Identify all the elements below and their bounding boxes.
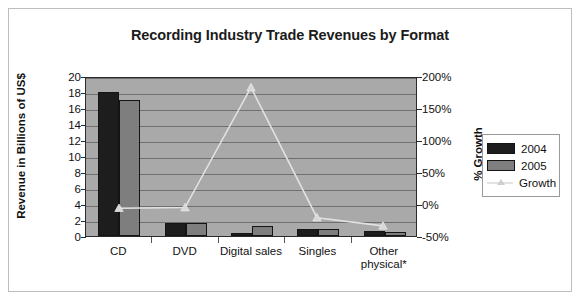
growth-line-series xyxy=(86,78,416,236)
growth-marker-digital-sales xyxy=(247,83,255,90)
y-tick-label-left: 0 xyxy=(41,231,81,243)
plot-area xyxy=(85,77,417,237)
legend-swatch-line-triangle-icon xyxy=(487,178,513,187)
legend-item-2005[interactable]: 2005 xyxy=(487,157,555,174)
x-axis-label: Singles xyxy=(284,245,350,258)
category-separator xyxy=(218,237,219,243)
legend-label: Growth xyxy=(519,177,556,189)
category-separator xyxy=(151,237,152,243)
category-separator xyxy=(284,237,285,243)
category-separator xyxy=(351,237,352,243)
legend-label: 2004 xyxy=(521,143,547,155)
legend-item-2004[interactable]: 2004 xyxy=(487,140,555,157)
y-tick-label-right: -50% xyxy=(422,231,470,243)
x-axis-label: CD xyxy=(85,245,151,258)
y-tick-label-left: 6 xyxy=(41,183,81,195)
y-tick-label-left: 10 xyxy=(41,151,81,163)
y-tick-label-left: 16 xyxy=(41,103,81,115)
y-tick-label-left: 4 xyxy=(41,199,81,211)
y-axis-left-title-text: Revenue in Billions of US$ xyxy=(15,73,27,219)
y-tick-label-right: 200% xyxy=(422,71,470,83)
y-tick-label-left: 8 xyxy=(41,167,81,179)
y-tick-label-right: 150% xyxy=(422,103,470,115)
y-tick-label-left: 20 xyxy=(41,71,81,83)
y-tick-mark-left xyxy=(81,237,86,238)
y-tick-mark-right xyxy=(417,77,422,78)
x-axis-label: Other physical* xyxy=(351,245,417,271)
y-tick-mark-right xyxy=(417,173,422,174)
y-tick-label-right: 50% xyxy=(422,167,470,179)
chart-legend: 20042005Growth xyxy=(482,134,560,197)
y-tick-mark-right xyxy=(417,205,422,206)
x-axis-labels: CDDVDDigital salesSinglesOther physical* xyxy=(85,245,417,291)
chart-frame: Recording Industry Trade Revenues by For… xyxy=(8,8,572,292)
y-tick-label-right: 0% xyxy=(422,199,470,211)
y-tick-label-left: 2 xyxy=(41,215,81,227)
y-tick-mark-right xyxy=(417,109,422,110)
y-tick-label-left: 18 xyxy=(41,87,81,99)
y-axis-left-ticks: 02468101214161820 xyxy=(37,77,81,237)
x-axis-label: DVD xyxy=(151,245,217,258)
x-axis-label: Digital sales xyxy=(218,245,284,258)
y-tick-label-left: 12 xyxy=(41,135,81,147)
y-tick-mark-right xyxy=(417,141,422,142)
y-tick-mark-right xyxy=(417,237,422,238)
y-tick-label-right: 100% xyxy=(422,135,470,147)
legend-swatch-bar-gray-icon xyxy=(487,160,515,171)
y-axis-left-title: Revenue in Billions of US$ xyxy=(13,57,29,235)
legend-label: 2005 xyxy=(521,160,547,172)
y-axis-right-ticks: -50%0%50%100%150%200% xyxy=(422,77,472,237)
chart-title: Recording Industry Trade Revenues by For… xyxy=(9,27,571,43)
growth-line-path xyxy=(119,87,383,225)
legend-swatch-bar-dark-icon xyxy=(487,143,515,154)
legend-item-growth[interactable]: Growth xyxy=(487,174,555,191)
y-tick-label-left: 14 xyxy=(41,119,81,131)
